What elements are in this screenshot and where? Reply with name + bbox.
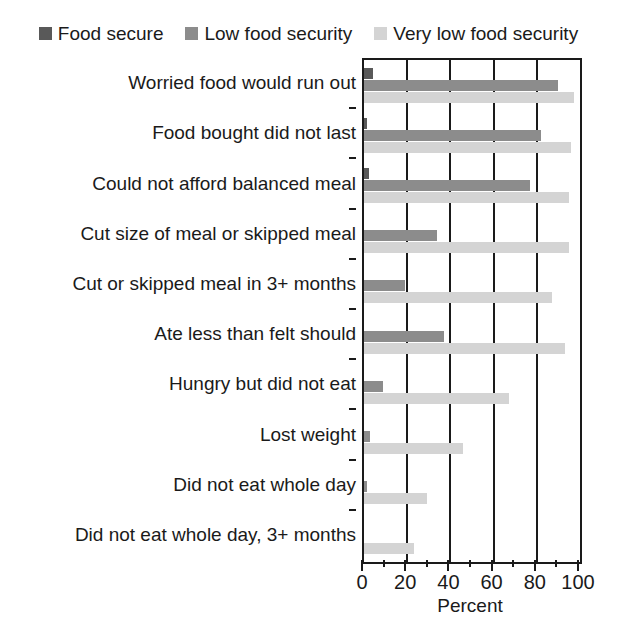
bar-very-low-food-security bbox=[364, 493, 427, 504]
bar-very-low-food-security bbox=[364, 242, 569, 253]
x-tick-label-20: 20 bbox=[394, 572, 416, 592]
bar-group bbox=[364, 311, 580, 361]
bar-low-food-security bbox=[364, 80, 558, 91]
bar-chart-plot-area bbox=[362, 58, 582, 564]
bar-very-low-food-security bbox=[364, 92, 574, 103]
x-tick-label-60: 60 bbox=[480, 572, 502, 592]
bar-group bbox=[364, 110, 580, 160]
bar-group bbox=[364, 462, 580, 512]
bar-food-secure bbox=[364, 118, 367, 129]
category-tick bbox=[349, 208, 356, 210]
bar-very-low-food-security bbox=[364, 443, 463, 454]
category-label: Cut or skipped meal in 3+ months bbox=[0, 274, 356, 293]
x-tick-major-0 bbox=[361, 560, 363, 571]
category-label: Cut size of meal or skipped meal bbox=[0, 224, 356, 243]
bar-very-low-food-security bbox=[364, 343, 565, 354]
x-tick-minor-70 bbox=[512, 560, 514, 567]
bar-very-low-food-security bbox=[364, 292, 552, 303]
category-label: Hungry but did not eat bbox=[0, 374, 356, 393]
bar-very-low-food-security bbox=[364, 543, 414, 554]
legend-swatch-low-food-security bbox=[185, 27, 198, 40]
category-label: Did not eat whole day, 3+ months bbox=[0, 525, 356, 544]
bar-low-food-security bbox=[364, 280, 405, 291]
x-axis-title: Percent bbox=[362, 596, 578, 615]
legend-item-low-food-security: Low food security bbox=[185, 24, 352, 43]
legend-label-food-secure: Food secure bbox=[58, 24, 164, 43]
bar-food-secure bbox=[364, 68, 373, 79]
x-tick-minor-10 bbox=[383, 560, 385, 567]
category-label: Food bought did not last bbox=[0, 123, 356, 142]
legend-item-food-secure: Food secure bbox=[39, 24, 164, 43]
bar-low-food-security bbox=[364, 381, 383, 392]
category-label: Worried food would run out bbox=[0, 73, 356, 92]
category-tick bbox=[349, 308, 356, 310]
bar-low-food-security bbox=[364, 431, 370, 442]
x-tick-minor-30 bbox=[426, 560, 428, 567]
category-axis-labels: Worried food would run outFood bought di… bbox=[0, 58, 356, 560]
bar-very-low-food-security bbox=[364, 192, 569, 203]
category-label: Did not eat whole day bbox=[0, 475, 356, 494]
bar-low-food-security bbox=[364, 130, 541, 141]
legend-label-low-food-security: Low food security bbox=[204, 24, 352, 43]
bar-low-food-security bbox=[364, 230, 437, 241]
category-label: Ate less than felt should bbox=[0, 324, 356, 343]
bar-food-secure bbox=[364, 168, 369, 179]
category-tick bbox=[349, 157, 356, 159]
bar-group bbox=[364, 211, 580, 261]
x-tick-major-20 bbox=[404, 560, 406, 571]
x-tick-label-0: 0 bbox=[356, 572, 367, 592]
x-tick-minor-90 bbox=[555, 560, 557, 567]
bar-low-food-security bbox=[364, 180, 530, 191]
category-label: Lost weight bbox=[0, 425, 356, 444]
legend-swatch-very-low-food-security bbox=[374, 27, 387, 40]
bar-low-food-security bbox=[364, 481, 367, 492]
bar-group bbox=[364, 512, 580, 562]
category-tick bbox=[349, 459, 356, 461]
bar-group bbox=[364, 411, 580, 461]
bar-group bbox=[364, 261, 580, 311]
bar-low-food-security bbox=[364, 331, 444, 342]
legend-label-very-low-food-security: Very low food security bbox=[393, 24, 578, 43]
legend-swatch-food-secure bbox=[39, 27, 52, 40]
chart-legend: Food secure Low food security Very low f… bbox=[0, 18, 617, 48]
category-tick bbox=[349, 258, 356, 260]
category-tick bbox=[349, 408, 356, 410]
category-tick bbox=[349, 509, 356, 511]
x-tick-major-80 bbox=[534, 560, 536, 571]
x-tick-major-40 bbox=[447, 560, 449, 571]
x-tick-label-40: 40 bbox=[437, 572, 459, 592]
bar-very-low-food-security bbox=[364, 142, 571, 153]
chart-bar-rows bbox=[364, 60, 580, 562]
x-tick-minor-50 bbox=[469, 560, 471, 567]
bar-very-low-food-security bbox=[364, 393, 509, 404]
legend-item-very-low-food-security: Very low food security bbox=[374, 24, 578, 43]
category-tick bbox=[349, 107, 356, 109]
category-tick bbox=[349, 358, 356, 360]
x-tick-major-100 bbox=[577, 560, 579, 571]
x-tick-label-100: 100 bbox=[561, 572, 594, 592]
x-tick-major-60 bbox=[491, 560, 493, 571]
category-label: Could not afford balanced meal bbox=[0, 174, 356, 193]
bar-group bbox=[364, 60, 580, 110]
value-axis: Percent 020406080100 bbox=[362, 560, 582, 640]
x-tick-label-80: 80 bbox=[524, 572, 546, 592]
bar-group bbox=[364, 361, 580, 411]
bar-group bbox=[364, 160, 580, 210]
